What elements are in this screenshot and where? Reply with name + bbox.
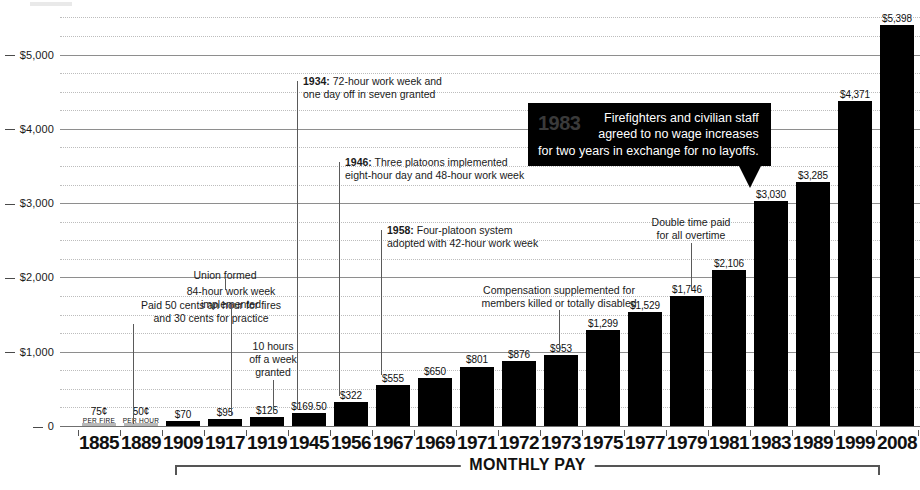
- x-axis-label: 1973: [541, 432, 581, 454]
- bar-value-label: 50¢: [133, 406, 149, 417]
- x-axis-tick: [918, 430, 919, 436]
- callout-body: 1983 Firefighters and civilian staff agr…: [528, 103, 771, 166]
- annotation-compensation-line-1: Compensation supplemented for: [483, 284, 635, 296]
- annotation-1958-line-2: adopted with 42-hour work week: [387, 237, 538, 249]
- x-axis-label: 1979: [667, 432, 707, 454]
- annotation-compensation-line-2: members killed or totally disabled: [481, 297, 636, 309]
- annotation-1946-line-1: 1946: Three platoons implemented: [345, 156, 508, 168]
- gridline-major: [60, 426, 920, 427]
- bar: [334, 402, 368, 426]
- annotation-1946: 1946: Three platoons implementedeight-ho…: [345, 156, 524, 182]
- annotation-1934: 1934: 72-hour work week andone day off i…: [303, 75, 442, 101]
- gridline-minor: [60, 36, 920, 37]
- x-axis-title: MONTHLY PAY: [460, 456, 594, 474]
- annotation-double-time: Double time paidfor all overtime: [652, 216, 731, 242]
- bar-label: $3,285: [798, 170, 828, 181]
- annotation-leader-line: [339, 162, 340, 397]
- bar: [376, 385, 410, 426]
- x-axis-label: 2008: [877, 432, 917, 454]
- gridline-minor: [60, 222, 920, 223]
- x-axis-label: 1917: [205, 432, 245, 454]
- gridline-minor: [60, 17, 920, 18]
- annotation-1934-line-2: one day off in seven granted: [303, 88, 435, 100]
- y-axis-tick: $2,000: [5, 271, 54, 283]
- y-axis-tick: $1,000: [5, 346, 54, 358]
- y-axis-tick: $3,000: [5, 197, 54, 209]
- bar-label: $125: [256, 405, 278, 416]
- gridline-minor: [60, 333, 920, 334]
- bar-label: 50¢PER HOUR: [123, 406, 160, 424]
- bar-value-label: $953: [550, 343, 572, 354]
- bar: [628, 312, 662, 426]
- annotation-1946-line-2: eight-hour day and 48-hour work week: [345, 169, 524, 181]
- bar-value-sublabel: PER FIRE: [83, 417, 115, 424]
- x-axis-label: 1975: [583, 432, 623, 454]
- annotation-paid-50-cents-line-2: and 30 cents for practice: [154, 312, 269, 324]
- bar-value-label: $876: [508, 349, 530, 360]
- top-artifact: [30, 2, 72, 6]
- bar-value-label: $3,030: [756, 189, 786, 200]
- annotation-1946-year: 1946:: [345, 156, 372, 168]
- x-axis-label: 1981: [709, 432, 749, 454]
- x-axis-label: 1885: [79, 432, 119, 454]
- annotation-double-time-line-2: for all overtime: [657, 229, 726, 241]
- x-axis-label: 1977: [625, 432, 665, 454]
- x-axis-label: 1983: [751, 432, 791, 454]
- y-axis-tick: 0: [33, 420, 54, 432]
- bar-value-label: $2,106: [714, 258, 744, 269]
- y-axis-tick: $4,000: [5, 123, 54, 135]
- bar-value-sublabel: PER HOUR: [123, 417, 160, 424]
- annotation-double-time-line-1: Double time paid: [652, 216, 731, 228]
- y-axis-tick-label: $2,000: [20, 271, 54, 283]
- callout-1983: 1983 Firefighters and civilian staff agr…: [528, 103, 771, 166]
- gridline-minor: [60, 73, 920, 74]
- bar-value-label: $555: [382, 373, 404, 384]
- y-axis-tick-label: 0: [48, 420, 54, 432]
- annotation-leader-line: [133, 324, 134, 424]
- bar: [418, 378, 452, 426]
- annotation-10-hours-off-line-3: granted: [255, 366, 291, 378]
- bar-value-label: $1,299: [588, 318, 618, 329]
- bar: [838, 101, 872, 426]
- bar-label: 75¢PER FIRE: [83, 406, 115, 424]
- bar: [712, 270, 746, 426]
- bar-label: $876: [508, 349, 530, 360]
- bar-label: $3,030: [756, 189, 786, 200]
- x-axis-label: 1971: [457, 432, 497, 454]
- bar-label: $5,398: [882, 13, 912, 24]
- bar: [292, 413, 326, 426]
- annotation-10-hours-off-line-2: off a week: [249, 353, 297, 365]
- annotation-1934-line-1: 1934: 72-hour work week and: [303, 75, 442, 87]
- bar-label: $650: [424, 366, 446, 377]
- gridline-major: [60, 129, 920, 130]
- bar: [250, 417, 284, 426]
- bar: [460, 367, 494, 427]
- bar-value-label: $1,746: [672, 284, 702, 295]
- x-axis-label: 1969: [415, 432, 455, 454]
- annotation-leader-line: [559, 310, 560, 352]
- bar-label: $322: [340, 390, 362, 401]
- monthly-pay-bracket: MONTHLY PAY: [175, 465, 880, 477]
- bar-value-label: $801: [466, 354, 488, 365]
- bracket-cap-right: [878, 465, 880, 475]
- bar-value-label: $5,398: [882, 13, 912, 24]
- annotation-leader-line: [297, 81, 298, 409]
- bar-label: $801: [466, 354, 488, 365]
- annotation-leader-line: [273, 380, 274, 412]
- bar-label: $4,371: [840, 89, 870, 100]
- annotation-1958: 1958: Four-platoon systemadopted with 42…: [387, 224, 538, 250]
- x-axis-label: 1909: [163, 432, 203, 454]
- y-axis-tick-label: $4,000: [20, 123, 54, 135]
- bar: [208, 419, 242, 426]
- annotation-1958-line-1: 1958: Four-platoon system: [387, 224, 512, 236]
- bar-value-label: 75¢: [91, 406, 107, 417]
- bar-label: $70: [175, 409, 191, 420]
- annotation-10-hours-off-line-1: 10 hours: [253, 340, 294, 352]
- gridline-major: [60, 203, 920, 204]
- gridline-major: [60, 55, 920, 56]
- bar-value-label: $125: [256, 405, 278, 416]
- callout-year: 1983: [538, 110, 581, 136]
- annotation-leader-line: [231, 303, 232, 416]
- x-axis-label: 1989: [793, 432, 833, 454]
- bar: [754, 201, 788, 426]
